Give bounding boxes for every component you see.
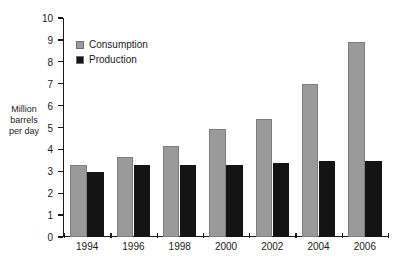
x-axis: 1994199619982000200220042006	[64, 239, 388, 259]
bar-consumption-2006	[348, 42, 365, 237]
bar-production-2000	[226, 165, 243, 237]
x-tick-mark-6	[342, 233, 343, 238]
x-tick-label-1998: 1998	[169, 241, 191, 252]
bar-group-2000	[203, 18, 249, 237]
legend: ConsumptionProduction	[76, 39, 148, 65]
bar-group-2004	[295, 18, 341, 237]
legend-entry-consumption: Consumption	[76, 39, 148, 50]
bar-group-2002	[249, 18, 295, 237]
bar-consumption-2002	[256, 119, 273, 237]
x-tick-label-2006: 2006	[354, 241, 376, 252]
bar-production-1998	[180, 165, 197, 237]
y-tick-label-0: 0	[47, 232, 53, 243]
y-axis: 109876543210	[0, 0, 63, 265]
y-tick-label-6: 6	[47, 100, 53, 111]
bar-production-1994	[87, 172, 104, 237]
x-tick-label-2002: 2002	[261, 241, 283, 252]
x-tick-label-2000: 2000	[215, 241, 237, 252]
legend-swatch-consumption	[76, 41, 84, 49]
x-tick-mark-4	[249, 233, 250, 238]
x-tick-mark-3	[203, 233, 204, 238]
bar-production-2002	[273, 163, 290, 237]
x-tick-label-2004: 2004	[307, 241, 329, 252]
bar-consumption-1994	[70, 165, 87, 237]
bar-group-2006	[342, 18, 388, 237]
y-tick-label-5: 5	[47, 122, 53, 133]
y-tick-label-9: 9	[47, 34, 53, 45]
bar-production-2006	[365, 161, 382, 237]
y-tick-label-10: 10	[42, 13, 53, 24]
y-tick-label-8: 8	[47, 56, 53, 67]
x-tick-mark-1	[110, 233, 111, 238]
x-tick-mark-2	[157, 233, 158, 238]
legend-entry-production: Production	[76, 54, 148, 65]
bar-consumption-2004	[302, 84, 319, 237]
bar-production-2004	[319, 161, 336, 237]
x-tick-label-1996: 1996	[122, 241, 144, 252]
legend-swatch-production	[76, 56, 84, 64]
x-tick-label-1994: 1994	[76, 241, 98, 252]
bar-consumption-1998	[163, 146, 180, 237]
bar-group-1998	[157, 18, 203, 237]
x-tick-mark-7	[388, 233, 389, 238]
bar-chart-figure: Million barrels per day 109876543210 199…	[0, 0, 398, 265]
bar-consumption-2000	[209, 129, 226, 237]
legend-label-consumption: Consumption	[89, 39, 148, 50]
bar-production-1996	[134, 165, 151, 237]
y-tick-label-3: 3	[47, 166, 53, 177]
y-tick-label-4: 4	[47, 144, 53, 155]
x-tick-mark-0	[64, 233, 65, 238]
y-tick-label-1: 1	[47, 210, 53, 221]
y-tick-label-7: 7	[47, 78, 53, 89]
bar-consumption-1996	[117, 157, 134, 237]
legend-label-production: Production	[89, 54, 137, 65]
y-tick-label-2: 2	[47, 188, 53, 199]
x-tick-mark-5	[295, 233, 296, 238]
